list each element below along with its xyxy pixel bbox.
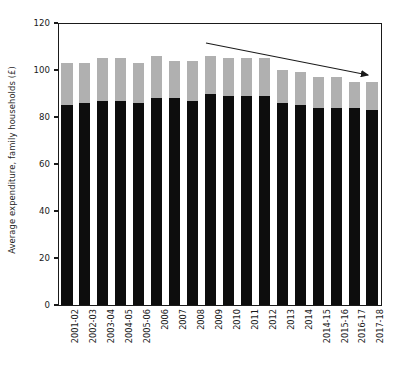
bar-group[interactable]: [295, 23, 306, 305]
bar-segment-lower[interactable]: [277, 103, 288, 305]
bar-segment-lower[interactable]: [295, 105, 306, 305]
bar-segment-upper[interactable]: [133, 63, 144, 103]
x-tick-label: 2008: [196, 309, 206, 330]
bar-group[interactable]: [223, 23, 234, 305]
bar-segment-upper[interactable]: [61, 63, 72, 105]
bar-segment-upper[interactable]: [331, 77, 342, 108]
bar-group[interactable]: [133, 23, 144, 305]
y-tick-mark: [54, 69, 58, 70]
y-tick-label: 20: [39, 254, 50, 263]
plot-area: [58, 23, 381, 305]
y-tick-mark: [54, 116, 58, 117]
chart-container: Average expenditure, family households (…: [0, 0, 398, 373]
bar-segment-upper[interactable]: [223, 58, 234, 96]
y-axis-title: Average expenditure, family households (…: [0, 0, 24, 320]
bar-segment-lower[interactable]: [205, 94, 216, 306]
bar-group[interactable]: [277, 23, 288, 305]
bar-segment-upper[interactable]: [97, 58, 108, 100]
y-tick-mark: [54, 22, 58, 23]
bar-group[interactable]: [151, 23, 162, 305]
x-tick-label: 2005-06: [142, 309, 152, 343]
bar-segment-upper[interactable]: [115, 58, 126, 100]
x-tick-label: 2003-04: [106, 309, 116, 343]
bar-segment-lower[interactable]: [151, 98, 162, 305]
bar-group[interactable]: [115, 23, 126, 305]
x-tick-label: 2016-17: [357, 309, 367, 343]
bar-group[interactable]: [97, 23, 108, 305]
y-tick-label: 80: [39, 113, 50, 122]
y-tick-mark: [54, 163, 58, 164]
bar-group[interactable]: [61, 23, 72, 305]
x-tick-label: 2014: [304, 309, 314, 330]
y-tick-label: 120: [34, 19, 50, 28]
bar-segment-upper[interactable]: [187, 61, 198, 101]
bar-segment-lower[interactable]: [79, 103, 90, 305]
x-tick-label: 2009: [214, 309, 224, 330]
bar-group[interactable]: [259, 23, 270, 305]
y-tick-mark: [54, 257, 58, 258]
x-tick-label: 2017-18: [375, 309, 385, 343]
bar-segment-lower[interactable]: [349, 108, 360, 305]
y-tick-label: 60: [39, 160, 50, 169]
bar-segment-upper[interactable]: [79, 63, 90, 103]
bar-segment-upper[interactable]: [151, 56, 162, 98]
bar-group[interactable]: [349, 23, 360, 305]
bar-group[interactable]: [313, 23, 324, 305]
bar-segment-upper[interactable]: [313, 77, 324, 108]
bar-segment-lower[interactable]: [241, 96, 252, 305]
x-tick-label: 2014-15: [322, 309, 332, 343]
x-tick-label: 2012: [268, 309, 278, 330]
bar-group[interactable]: [331, 23, 342, 305]
bar-segment-lower[interactable]: [169, 98, 180, 305]
bar-group[interactable]: [241, 23, 252, 305]
y-tick-label: 100: [34, 66, 50, 75]
x-tick-label: 2011: [250, 309, 260, 330]
y-tick-mark: [54, 210, 58, 211]
y-axis-title-text: Average expenditure, family households (…: [7, 66, 17, 254]
x-tick-label: 2010: [232, 309, 242, 330]
bar-segment-upper[interactable]: [205, 56, 216, 94]
bar-segment-upper[interactable]: [295, 72, 306, 105]
x-tick-label: 2002-03: [88, 309, 98, 343]
bar-segment-lower[interactable]: [313, 108, 324, 305]
bar-segment-upper[interactable]: [366, 82, 377, 110]
bar-segment-lower[interactable]: [115, 101, 126, 305]
bar-segment-lower[interactable]: [331, 108, 342, 305]
bar-segment-lower[interactable]: [61, 105, 72, 305]
bar-group[interactable]: [366, 23, 377, 305]
bar-group[interactable]: [205, 23, 216, 305]
x-tick-label: 2015-16: [340, 309, 350, 343]
bar-segment-lower[interactable]: [187, 101, 198, 305]
bar-segment-lower[interactable]: [223, 96, 234, 305]
bar-segment-upper[interactable]: [241, 58, 252, 96]
x-tick-label: 2013: [286, 309, 296, 330]
bar-segment-upper[interactable]: [277, 70, 288, 103]
bar-segment-upper[interactable]: [169, 61, 180, 99]
bar-segment-upper[interactable]: [349, 82, 360, 108]
x-tick-label: 2001-02: [70, 309, 80, 343]
bar-segment-lower[interactable]: [133, 103, 144, 305]
bar-group[interactable]: [79, 23, 90, 305]
bar-group[interactable]: [187, 23, 198, 305]
x-tick-label: 2006: [160, 309, 170, 330]
x-tick-label: 2004-05: [124, 309, 134, 343]
bar-group[interactable]: [169, 23, 180, 305]
y-tick-label: 40: [39, 207, 50, 216]
bar-segment-lower[interactable]: [97, 101, 108, 305]
x-tick-label: 2007: [178, 309, 188, 330]
bar-segment-lower[interactable]: [259, 96, 270, 305]
y-tick-label: 0: [45, 301, 50, 310]
y-tick-mark: [54, 304, 58, 305]
bar-segment-lower[interactable]: [366, 110, 377, 305]
bar-segment-upper[interactable]: [259, 58, 270, 96]
